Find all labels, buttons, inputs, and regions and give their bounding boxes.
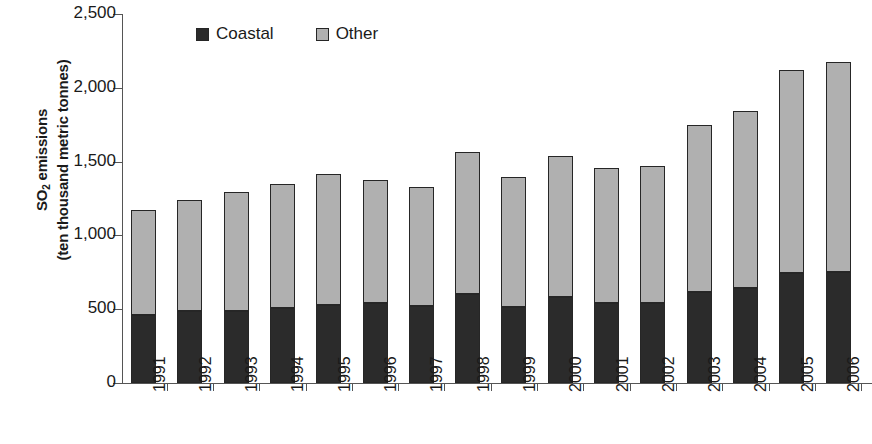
x-axis-label: 1992 [197,356,215,392]
bar-stack[interactable] [779,70,804,383]
bar-stack[interactable] [224,192,249,383]
y-axis-tick-label: 2,000 [73,77,116,97]
bar-segment-other[interactable] [455,152,480,294]
bar-segment-other[interactable] [548,156,573,296]
x-axis-label: 1994 [289,356,307,392]
bar-segment-other[interactable] [224,192,249,311]
x-axis-label: 1997 [428,356,446,392]
bar-segment-other[interactable] [640,166,665,303]
y-axis-tick-label: 1,000 [73,224,116,244]
bar-stack[interactable] [409,187,434,383]
bar-segment-other[interactable] [270,184,295,309]
bar-stack[interactable] [270,184,295,383]
bar-segment-other[interactable] [177,200,202,311]
bar-segment-other[interactable] [594,168,619,302]
bar-segment-other[interactable] [779,70,804,273]
y-axis-title: SO2 emissions (ten thousand metric tonne… [32,10,72,310]
bar-stack[interactable] [687,125,712,383]
bar-segment-other[interactable] [316,174,341,305]
y-axis-title-subscript: 2 [41,184,52,189]
y-axis-title-so: SO [33,190,50,211]
bar-stack[interactable] [363,180,388,383]
y-axis-tick-label: 500 [88,298,116,318]
bar-stack[interactable] [455,152,480,383]
y-axis-line [122,14,123,383]
bar-segment-other[interactable] [363,180,388,303]
bar-stack[interactable] [733,111,758,383]
x-axis-label: 1991 [151,356,169,392]
bar-segment-other[interactable] [687,125,712,291]
x-axis-label: 2001 [614,356,632,392]
chart-page: SO2 emissions (ten thousand metric tonne… [0,0,872,444]
x-axis-label: 1995 [336,356,354,392]
bar-segment-other[interactable] [733,111,758,288]
x-axis-label: 2004 [752,356,770,392]
bar-stack[interactable] [594,168,619,383]
bar-stack[interactable] [548,156,573,383]
x-axis-label: 1993 [243,356,261,392]
bar-segment-other[interactable] [409,187,434,307]
bar-stack[interactable] [640,166,665,383]
x-axis-label: 2005 [799,356,817,392]
x-axis-label: 2006 [845,356,863,392]
bar-segment-other[interactable] [501,177,526,307]
x-axis-label: 2003 [706,356,724,392]
y-axis-title-line-2: (ten thousand metric tonnes) [53,10,72,310]
y-axis-title-line-1: SO2 emissions [32,10,53,310]
x-axis-label: 1999 [521,356,539,392]
bar-stack[interactable] [826,62,851,383]
y-axis-tick-label: 1,500 [73,151,116,171]
y-axis-tick-label: 2,500 [73,3,116,23]
plot-area: 2,5002,0001,5001,0005000 199119921993199… [122,14,872,383]
y-axis-title-emissions: emissions [33,109,50,185]
y-axis-tick-label: 0 [107,372,116,392]
x-axis-label: 2000 [567,356,585,392]
bar-segment-other[interactable] [826,62,851,272]
bar-segment-other[interactable] [131,210,156,316]
x-axis-label: 1996 [382,356,400,392]
bar-stack[interactable] [316,174,341,383]
x-axis-label: 2002 [660,356,678,392]
x-axis-label: 1998 [475,356,493,392]
bar-stack[interactable] [501,177,526,383]
